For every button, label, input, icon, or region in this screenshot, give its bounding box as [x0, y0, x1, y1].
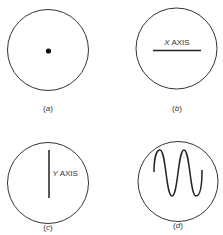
screen-circle-b: [136, 8, 217, 89]
oscilloscope-figure: (a) X AXIS (b) Y AXIS (c) (d): [0, 0, 223, 235]
panel-a: (a): [8, 10, 89, 114]
y-axis-text: Y AXIS: [53, 169, 78, 178]
x-axis-text: X AXIS: [163, 38, 189, 47]
panel-b: X AXIS (b): [136, 8, 217, 113]
sine-wave: [154, 150, 202, 196]
panel-label-d: (d): [173, 221, 183, 230]
panel-d: (d): [138, 142, 218, 231]
dot-icon: [46, 48, 51, 53]
panel-label-c: (c): [43, 223, 53, 232]
screen-circle-d: [138, 142, 218, 222]
panel-label-a: (a): [43, 104, 53, 113]
panel-label-b: (b): [172, 104, 182, 113]
panel-c: Y AXIS (c): [8, 143, 89, 233]
screen-circle-c: [8, 143, 89, 224]
